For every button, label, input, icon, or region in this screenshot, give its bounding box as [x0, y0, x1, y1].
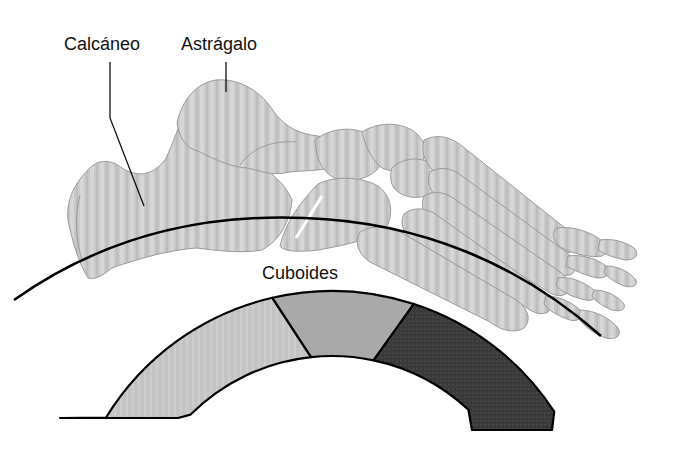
arch-segment-posterior — [60, 298, 311, 418]
phalanx-bone — [604, 266, 636, 287]
foot-arch-diagram — [0, 0, 677, 455]
phalanx-bone — [556, 278, 596, 301]
phalanx-bone — [598, 239, 637, 260]
cuboid-label: Cuboides — [262, 264, 338, 282]
phalanx-bone — [592, 290, 624, 311]
calcaneus-label: Calcáneo — [64, 35, 140, 53]
phalanx-bone — [566, 255, 609, 278]
talus-label: Astrágalo — [181, 35, 257, 53]
phalanx-bone — [544, 296, 581, 321]
